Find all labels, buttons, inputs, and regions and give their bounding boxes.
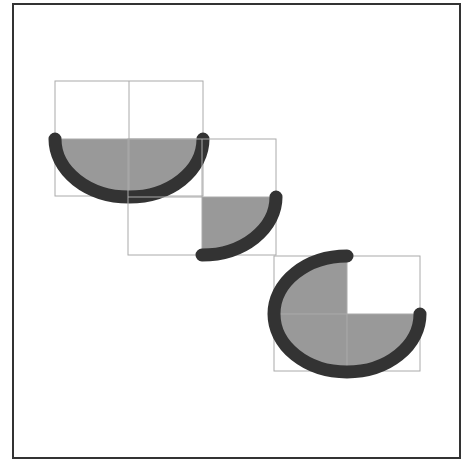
diagram-canvas: [0, 0, 469, 473]
three-quarter-arc: [274, 256, 420, 372]
